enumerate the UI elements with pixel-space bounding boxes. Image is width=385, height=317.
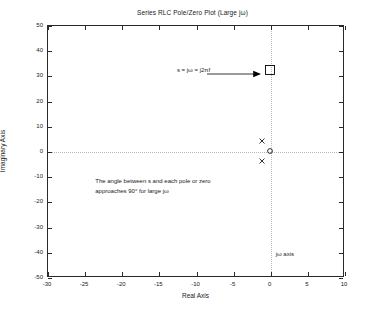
- y-tick: [48, 102, 52, 103]
- y-tick-label: -40: [25, 249, 43, 255]
- y-tick-right: [339, 127, 343, 128]
- y-tick: [48, 177, 52, 178]
- y-tick-right: [339, 26, 343, 27]
- x-tick-label: -25: [80, 281, 89, 287]
- x-tick-label: 10: [341, 281, 348, 287]
- zero-marker: [266, 148, 273, 155]
- y-axis-label: Imaginary Axis: [0, 91, 6, 211]
- x-tick-label: -5: [230, 281, 235, 287]
- y-tick-label: 40: [25, 47, 43, 53]
- y-tick-right: [339, 51, 343, 52]
- y-tick-label: 50: [25, 22, 43, 28]
- x-tick: [308, 272, 309, 276]
- y-tick-right: [339, 177, 343, 178]
- pole-zero-plot-figure: Series RLC Pole/Zero Plot (Large jω) -30…: [0, 0, 385, 317]
- y-tick-label: 0: [25, 148, 43, 154]
- pole-marker: [259, 158, 266, 165]
- x-axis-label: Real Axis: [47, 292, 344, 299]
- y-tick: [48, 278, 52, 279]
- y-tick-label: -50: [25, 274, 43, 280]
- x-tick-top: [308, 26, 309, 30]
- y-tick-label: -20: [25, 198, 43, 204]
- x-tick-top: [271, 26, 272, 30]
- x-tick: [345, 272, 346, 276]
- x-tick-top: [345, 26, 346, 30]
- y-tick-label: -10: [25, 173, 43, 179]
- x-tick-top: [234, 26, 235, 30]
- y-tick-right: [339, 102, 343, 103]
- x-tick-label: -15: [154, 281, 163, 287]
- x-tick: [234, 272, 235, 276]
- y-tick-right: [339, 202, 343, 203]
- y-tick-right: [339, 228, 343, 229]
- y-tick: [48, 152, 52, 153]
- x-tick-top: [122, 26, 123, 30]
- y-tick: [48, 26, 52, 27]
- y-tick-label: 30: [25, 72, 43, 78]
- y-tick: [48, 253, 52, 254]
- x-tick-label: -30: [43, 281, 52, 287]
- plot-axes-area: [47, 25, 344, 277]
- x-tick-label: 0: [268, 281, 271, 287]
- annotation-jomega-axis-label: jω axis: [276, 249, 294, 260]
- x-tick: [122, 272, 123, 276]
- x-tick: [85, 272, 86, 276]
- real-axis-gridline: [48, 152, 343, 153]
- annotation-s-definition: s = jω = j2πf: [177, 65, 210, 76]
- y-tick-label: -30: [25, 224, 43, 230]
- y-tick: [48, 76, 52, 77]
- arrow-icon: [207, 65, 261, 83]
- page-title: Series RLC Pole/Zero Plot (Large jω): [0, 9, 385, 16]
- x-tick: [159, 272, 160, 276]
- y-tick-label: 10: [25, 123, 43, 129]
- x-tick: [197, 272, 198, 276]
- y-tick: [48, 228, 52, 229]
- y-tick-label: 20: [25, 98, 43, 104]
- y-tick-right: [339, 152, 343, 153]
- x-tick-top: [197, 26, 198, 30]
- y-tick-right: [339, 76, 343, 77]
- y-tick-right: [339, 278, 343, 279]
- x-tick-label: 5: [305, 281, 308, 287]
- annotation-angle-note-line2: approaches 90° for large jω: [95, 186, 168, 197]
- x-tick-label: -20: [117, 281, 126, 287]
- pole-marker: [259, 137, 266, 144]
- x-tick-label: -10: [191, 281, 200, 287]
- x-tick-top: [159, 26, 160, 30]
- s-point-marker: [264, 65, 275, 76]
- y-tick: [48, 51, 52, 52]
- x-tick: [271, 272, 272, 276]
- y-tick-right: [339, 253, 343, 254]
- x-tick-top: [85, 26, 86, 30]
- x-tick: [48, 272, 49, 276]
- y-tick: [48, 202, 52, 203]
- y-tick: [48, 127, 52, 128]
